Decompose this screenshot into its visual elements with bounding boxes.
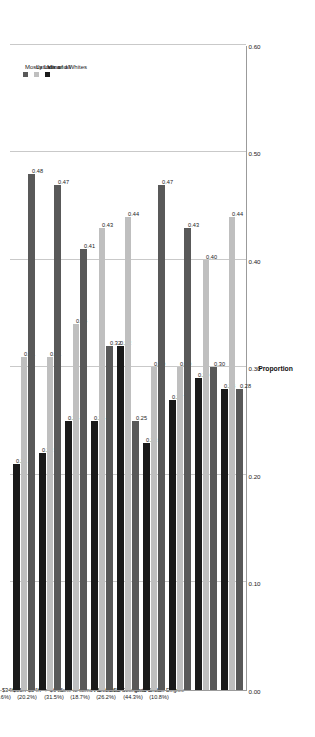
bar[interactable] <box>65 421 71 690</box>
value-axis-title: Proportion <box>0 365 315 372</box>
legend-item[interactable]: Mostly Latino <box>22 7 28 77</box>
value-tick-label: 0.40 <box>248 258 260 265</box>
bar[interactable] <box>125 217 131 690</box>
rotated-chart-frame: < $15K(12.0%)$15K-$24K(18.6%)$25K-$34K(1… <box>0 0 315 737</box>
bar[interactable] <box>236 389 242 690</box>
bar[interactable] <box>151 368 157 691</box>
bar[interactable] <box>158 185 164 690</box>
category-axis: < $15K(12.0%)$15K-$24K(18.6%)$25K-$34K(1… <box>10 691 247 737</box>
bar[interactable] <box>132 421 138 690</box>
legend-swatch-icon <box>45 72 50 77</box>
value-tick-label: 0.00 <box>248 688 260 695</box>
bar[interactable] <box>47 357 53 690</box>
bar[interactable] <box>73 325 79 691</box>
bar[interactable] <box>117 346 123 690</box>
legend-swatch-icon <box>34 72 39 77</box>
bar[interactable] <box>195 378 201 690</box>
bar[interactable] <box>169 400 175 690</box>
value-axis-title-text: Proportion <box>258 365 293 372</box>
bar[interactable] <box>106 346 112 690</box>
bar[interactable] <box>99 228 105 690</box>
bar[interactable] <box>54 185 60 690</box>
bar[interactable] <box>39 454 45 691</box>
value-tick-label: 0.60 <box>248 43 260 50</box>
value-tick-label: 0.10 <box>248 580 260 587</box>
bar[interactable] <box>91 421 97 690</box>
value-tick-label: 0.50 <box>248 150 260 157</box>
bar[interactable] <box>80 249 86 690</box>
chart-legend: Mostly LatinoLatinos and WhitesMix of al… <box>22 7 55 77</box>
value-tick-label: 0.20 <box>248 473 260 480</box>
grouped-bar-chart: < $15K(12.0%)$15K-$24K(18.6%)$25K-$34K(1… <box>0 0 315 737</box>
bar[interactable] <box>184 228 190 690</box>
bar[interactable] <box>21 357 27 690</box>
legend-swatch-icon <box>23 72 28 77</box>
bar[interactable] <box>210 368 216 691</box>
bar[interactable] <box>177 368 183 691</box>
bar[interactable] <box>28 174 34 690</box>
bar[interactable] <box>203 260 209 690</box>
bar[interactable] <box>13 464 19 690</box>
bar[interactable] <box>143 443 149 690</box>
bar[interactable] <box>229 217 235 690</box>
bar[interactable] <box>221 389 227 690</box>
legend-label: Mix of all <box>47 64 71 70</box>
